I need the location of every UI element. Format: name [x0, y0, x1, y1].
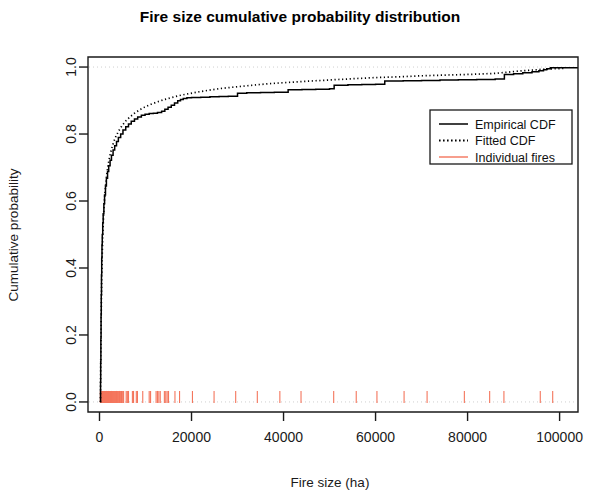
legend-label-empirical-cdf: Empirical CDF	[475, 118, 556, 132]
fire-size-cdf-chart: Fire size cumulative probability distrib…	[0, 0, 600, 499]
x-tick-label: 20000	[172, 429, 211, 445]
y-tick-label: 0.2	[63, 325, 79, 345]
y-tick-label: 0.4	[63, 258, 79, 278]
y-tick-label: 0.6	[63, 191, 79, 211]
y-axis-title: Cumulative probability	[6, 168, 21, 301]
legend-label-individual-fires: Individual fires	[475, 151, 555, 165]
x-axis-title: Fire size (ha)	[291, 475, 370, 490]
x-tick-label: 40000	[264, 429, 303, 445]
x-tick-label: 60000	[356, 429, 395, 445]
y-tick-label: 1.0	[63, 57, 79, 77]
x-tick-label: 100000	[536, 429, 583, 445]
x-tick-label: 80000	[448, 429, 487, 445]
legend-label-fitted-cdf: Fitted CDF	[475, 134, 536, 148]
chart-title: Fire size cumulative probability distrib…	[140, 8, 460, 25]
y-tick-label: 0.8	[63, 124, 79, 144]
chart-container: Fire size cumulative probability distrib…	[0, 0, 600, 499]
y-tick-label: 0.0	[63, 392, 79, 412]
chart-legend: Empirical CDFFitted CDFIndividual fires	[430, 110, 572, 165]
x-tick-label: 0	[96, 429, 104, 445]
